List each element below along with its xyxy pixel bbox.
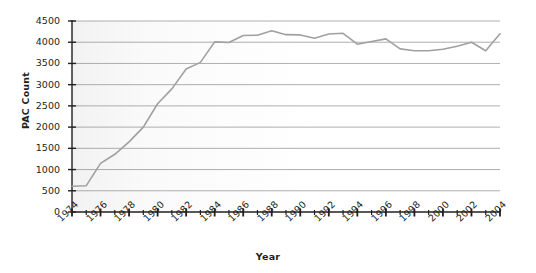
x-tick-label: 1974 <box>55 199 80 224</box>
x-tick-label: 1988 <box>255 199 280 224</box>
x-tick-label: 1978 <box>112 199 137 224</box>
x-tick-label: 1992 <box>312 199 337 224</box>
x-tick-label: 1986 <box>226 199 251 224</box>
x-tick-label: 2004 <box>483 199 508 224</box>
x-axis-tick-labels: 1974197619781980198219841986198819901992… <box>0 0 536 273</box>
x-tick-label: 2000 <box>426 199 451 224</box>
y-axis-title: PAC Count <box>20 56 31 146</box>
x-tick-label: 2002 <box>454 199 479 224</box>
x-tick-label: 1976 <box>84 199 109 224</box>
x-tick-label: 1984 <box>198 199 223 224</box>
x-tick-label: 1998 <box>397 199 422 224</box>
x-tick-label: 1982 <box>169 199 194 224</box>
x-tick-label: 1980 <box>141 199 166 224</box>
x-axis-title: Year <box>0 251 536 262</box>
pac-count-line-chart: 050010001500200025003000350040004500 197… <box>0 0 536 273</box>
x-tick-label: 1990 <box>283 199 308 224</box>
x-tick-label: 1994 <box>340 199 365 224</box>
x-tick-label: 1996 <box>369 199 394 224</box>
